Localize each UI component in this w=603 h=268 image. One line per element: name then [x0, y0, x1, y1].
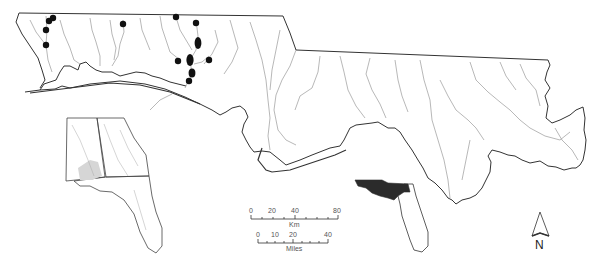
florida-panhandle-outline [74, 176, 162, 253]
site-marker [50, 15, 56, 21]
site-marker [43, 42, 49, 48]
northern-state-line [19, 13, 548, 60]
miles-tick-40: 40 [324, 231, 332, 238]
north-arrow [532, 212, 549, 236]
cape-san-blas [258, 148, 346, 172]
big-bend-coast [456, 150, 576, 204]
rivers [30, 16, 578, 198]
miles-tick-10: 10 [271, 231, 279, 238]
scale-bar [251, 215, 338, 243]
study-area-map [0, 0, 603, 268]
eastern-boundary [545, 60, 586, 168]
km-tick-20: 20 [268, 207, 276, 214]
site-marker [43, 27, 49, 33]
site-marker [195, 37, 202, 49]
florida-panhandle-fill [355, 180, 410, 200]
site-marker [193, 20, 199, 26]
site-marker [186, 54, 193, 66]
regional-inset-map [66, 118, 162, 253]
site-marker [120, 21, 126, 27]
km-unit-label: Km [289, 221, 300, 228]
site-marker [186, 78, 192, 84]
site-marker [189, 69, 196, 78]
florida-peninsula-outline [398, 184, 428, 252]
florida-inset-map [355, 180, 428, 252]
km-tick-80: 80 [333, 207, 341, 214]
miles-tick-20: 20 [289, 231, 297, 238]
km-tick-0: 0 [249, 207, 253, 214]
km-tick-40: 40 [291, 207, 299, 214]
site-marker [173, 14, 179, 20]
north-label: N [535, 238, 544, 252]
site-marker [175, 58, 181, 64]
miles-tick-0: 0 [256, 231, 260, 238]
site-marker [206, 57, 212, 63]
inset-shaded-area [78, 160, 102, 180]
barrier-island [30, 83, 200, 104]
western-boundary [16, 13, 45, 88]
miles-unit-label: Miles [286, 245, 302, 252]
